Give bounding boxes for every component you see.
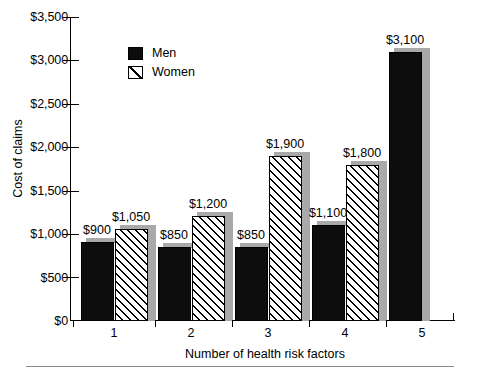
y-tick-label-0: $0 xyxy=(14,315,68,328)
bar-men-2 xyxy=(158,247,191,321)
bar-women-4 xyxy=(346,165,379,321)
y-tick-stub-2000 xyxy=(70,147,79,148)
bar-label-women-2: $1,200 xyxy=(168,198,248,211)
y-tick-stub-3500 xyxy=(70,17,79,18)
x-tick-mark-1 xyxy=(155,320,156,327)
bar-chart-figure: $3,500 $3,000 $2,500 $2,000 $1,500 $1,00… xyxy=(0,0,477,374)
y-axis-title: Cost of claims xyxy=(12,94,25,224)
bar-men-5 xyxy=(389,52,422,321)
bar-women-3 xyxy=(269,156,302,321)
bar-shadow-side-men-5 xyxy=(422,48,430,321)
legend-item-women: Women xyxy=(128,63,195,82)
y-tick-label-3500: $3,500 xyxy=(14,11,68,24)
bar-label-men-5: $3,100 xyxy=(365,34,445,47)
y-tick-stub-500 xyxy=(70,277,79,278)
x-tick-label-5: 5 xyxy=(402,327,442,340)
bar-men-1 xyxy=(81,242,114,321)
bar-label-women-3: $1,900 xyxy=(245,138,325,151)
y-tick-stub-2500 xyxy=(70,104,79,105)
footer-divider xyxy=(26,366,454,367)
x-tick-label-3: 3 xyxy=(248,327,288,340)
chart-legend: Men Women xyxy=(128,44,195,82)
x-axis-right-cap xyxy=(453,313,454,321)
bar-label-women-1: $1,050 xyxy=(91,211,171,224)
legend-label-men: Men xyxy=(152,47,176,60)
legend-swatch-men-icon xyxy=(128,47,143,60)
y-tick-label-500: $500 xyxy=(14,272,68,285)
y-tick-stub-3000 xyxy=(70,60,79,61)
x-tick-label-1: 1 xyxy=(94,327,134,340)
bar-men-4 xyxy=(312,225,345,321)
x-tick-mark-0 xyxy=(73,320,74,327)
x-tick-label-4: 4 xyxy=(325,327,365,340)
legend-label-women: Women xyxy=(152,66,195,79)
x-tick-label-2: 2 xyxy=(171,327,211,340)
x-tick-mark-4 xyxy=(386,320,387,327)
y-tick-label-3000: $3,000 xyxy=(14,54,68,67)
y-tick-stub-1500 xyxy=(70,191,79,192)
legend-item-men: Men xyxy=(128,44,195,63)
bar-shadow-side-women-3 xyxy=(302,152,310,321)
y-axis-line xyxy=(70,17,71,321)
bar-men-3 xyxy=(235,247,268,321)
legend-swatch-women-icon xyxy=(128,66,143,79)
x-axis-title: Number of health risk factors xyxy=(70,348,460,361)
bar-women-1 xyxy=(115,229,148,321)
bar-shadow-side-women-4 xyxy=(379,161,387,321)
x-tick-mark-2 xyxy=(232,320,233,327)
x-axis-left-cap xyxy=(70,313,71,321)
x-tick-mark-3 xyxy=(309,320,310,327)
